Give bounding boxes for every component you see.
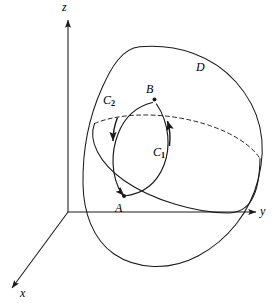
figure-canvas: [0, 0, 280, 303]
surface-boundary-D: [83, 46, 262, 266]
curve-label-c1-base: C: [153, 145, 161, 159]
axis-label-x: x: [20, 287, 25, 299]
curve-label-c1-subscript: 1: [161, 151, 165, 160]
point-A-marker: [122, 194, 126, 198]
axis-label-y: y: [260, 205, 265, 217]
axis-label-z: z: [62, 1, 67, 13]
curve-label-c2-subscript: 2: [111, 99, 115, 108]
axes-group: [12, 20, 256, 288]
curve-label-c1: C1: [153, 146, 165, 160]
point-label-a: A: [115, 202, 122, 214]
curve-C2: [113, 103, 153, 195]
x-axis: [12, 212, 68, 288]
curve-label-c2: C2: [103, 94, 115, 108]
point-label-b: B: [146, 83, 153, 95]
point-B-marker: [153, 98, 157, 102]
curve-label-c2-base: C: [103, 93, 111, 107]
region-label-d: D: [196, 61, 205, 73]
math-figure: z y x A B C1 C2 D: [0, 0, 280, 303]
ellipse-back-arc-dashed: [95, 115, 261, 159]
